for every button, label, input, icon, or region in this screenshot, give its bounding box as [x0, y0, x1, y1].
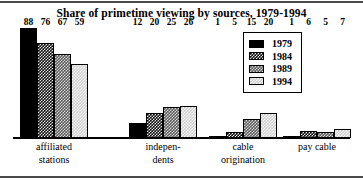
- x-axis-category-label-line: pay cable: [272, 141, 362, 154]
- bar-value-label: 1: [215, 17, 220, 27]
- x-axis-category-label-line: indepen-: [118, 141, 208, 154]
- bar[interactable]: 59: [71, 64, 88, 138]
- bar-item[interactable]: 5: [226, 28, 243, 138]
- bar[interactable]: 67: [54, 54, 71, 138]
- bar-value-label: 6: [306, 17, 311, 27]
- bar-value-label: 12: [133, 17, 143, 27]
- bar-value-label: 25: [167, 17, 177, 27]
- legend-swatch: [249, 40, 264, 48]
- bar-value-label: 59: [75, 17, 85, 27]
- bar[interactable]: 88: [20, 28, 37, 138]
- legend-item[interactable]: 1994: [249, 75, 292, 87]
- x-axis-category-label: pay cable: [272, 141, 362, 154]
- bar-item[interactable]: 67: [54, 28, 71, 138]
- legend-swatch: [249, 65, 264, 73]
- bar-item[interactable]: 25: [163, 28, 180, 138]
- x-axis-category-label: affiliatedstations: [9, 141, 99, 166]
- legend-item[interactable]: 1984: [249, 50, 292, 62]
- bar-value-label: 20: [264, 17, 274, 27]
- bar[interactable]: 26: [180, 106, 197, 139]
- x-axis-category-label-line: origination: [198, 154, 288, 167]
- bar[interactable]: 76: [37, 43, 54, 138]
- x-axis-baseline: [13, 137, 350, 139]
- bar-value-label: 67: [58, 17, 68, 27]
- bar-value-label: 15: [247, 17, 257, 27]
- bar-item[interactable]: 20: [146, 28, 163, 138]
- bar-item[interactable]: 88: [20, 28, 37, 138]
- bar-value-label: 76: [41, 17, 51, 27]
- bottom-divider-rule: [0, 176, 363, 178]
- bar-item[interactable]: 59: [71, 28, 88, 138]
- bar-item[interactable]: 12: [129, 28, 146, 138]
- bar-item[interactable]: 26: [180, 28, 197, 138]
- x-axis-category-label-line: affiliated: [9, 141, 99, 154]
- bar-item[interactable]: 76: [37, 28, 54, 138]
- bar[interactable]: 15: [243, 119, 260, 138]
- legend-swatch: [249, 77, 264, 85]
- bar[interactable]: 25: [163, 107, 180, 138]
- chart-legend: 1979198419891994: [243, 32, 302, 93]
- legend-item[interactable]: 1979: [249, 38, 292, 50]
- x-axis-category-label-line: dents: [118, 154, 208, 167]
- bar-value-label: 5: [232, 17, 237, 27]
- bar-group-bars: 12202526: [129, 28, 197, 138]
- x-axis-category-label: indepen-dents: [118, 141, 208, 166]
- legend-label: 1984: [272, 51, 292, 62]
- bar-item[interactable]: 6: [300, 28, 317, 138]
- bar-value-label: 20: [150, 17, 160, 27]
- legend-swatch: [249, 52, 264, 60]
- bar-item[interactable]: 1: [209, 28, 226, 138]
- bar-item[interactable]: 7: [334, 28, 351, 138]
- legend-item[interactable]: 1989: [249, 63, 292, 75]
- bar-item[interactable]: 5: [317, 28, 334, 138]
- legend-label: 1979: [272, 38, 292, 49]
- bar-value-label: 5: [323, 17, 328, 27]
- bar-value-label: 7: [340, 17, 345, 27]
- bar[interactable]: 20: [260, 113, 277, 138]
- bar-value-label: 26: [184, 17, 194, 27]
- bar[interactable]: 20: [146, 113, 163, 138]
- x-axis-category-label-line: stations: [9, 154, 99, 167]
- bar-group-bars: 88766759: [20, 28, 88, 138]
- bar-value-label: 1: [289, 17, 294, 27]
- top-divider-rule: [0, 1, 363, 3]
- chart-figure: Share of primetime viewing by sources, 1…: [0, 0, 363, 180]
- legend-label: 1994: [272, 76, 292, 87]
- legend-label: 1989: [272, 63, 292, 74]
- bar-value-label: 88: [24, 17, 34, 27]
- bar[interactable]: 12: [129, 123, 146, 138]
